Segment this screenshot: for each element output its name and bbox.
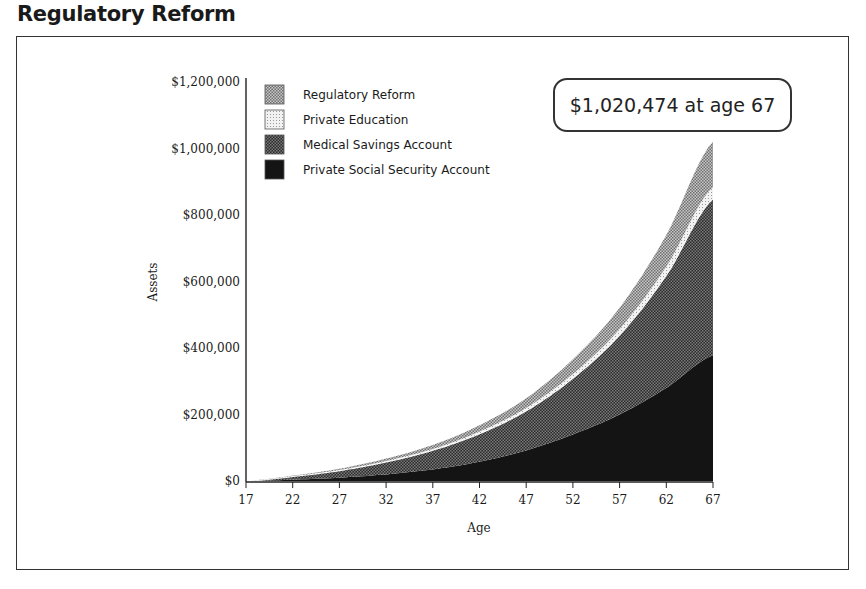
y-tick-label: $1,200,000 — [171, 75, 240, 89]
legend-swatch — [265, 160, 284, 179]
y-tick-label: $400,000 — [183, 341, 240, 355]
x-tick-label: 52 — [565, 493, 580, 507]
chart-legend: Regulatory ReformPrivate EducationMedica… — [265, 85, 490, 179]
chart-areas — [246, 142, 713, 481]
legend-label: Private Education — [303, 113, 408, 127]
y-tick-label: $600,000 — [183, 275, 240, 289]
x-tick-label: 17 — [238, 493, 253, 507]
legend-label: Private Social Security Account — [303, 163, 490, 177]
y-tick-label: $800,000 — [183, 208, 240, 222]
legend-swatch — [265, 135, 284, 154]
legend-label: Regulatory Reform — [303, 88, 415, 102]
legend-swatch — [265, 85, 284, 104]
x-tick-label: 37 — [425, 493, 440, 507]
legend-label: Medical Savings Account — [303, 138, 452, 152]
x-tick-label: 67 — [705, 493, 720, 507]
x-tick-label: 57 — [612, 493, 627, 507]
x-tick-label: 62 — [659, 493, 674, 507]
x-tick-label: 27 — [332, 493, 347, 507]
total-callout: $1,020,474 at age 67 — [553, 78, 792, 132]
legend-swatch — [265, 110, 284, 129]
x-tick-label: 22 — [285, 493, 300, 507]
x-tick-label: 42 — [472, 493, 487, 507]
x-tick-label: 47 — [519, 493, 534, 507]
y-axis-title: Assets — [146, 262, 160, 302]
y-tick-label: $0 — [225, 474, 240, 488]
y-tick-label: $1,000,000 — [171, 142, 240, 156]
x-axis-title: Age — [466, 521, 490, 535]
y-tick-label: $200,000 — [183, 408, 240, 422]
x-tick-label: 32 — [378, 493, 393, 507]
